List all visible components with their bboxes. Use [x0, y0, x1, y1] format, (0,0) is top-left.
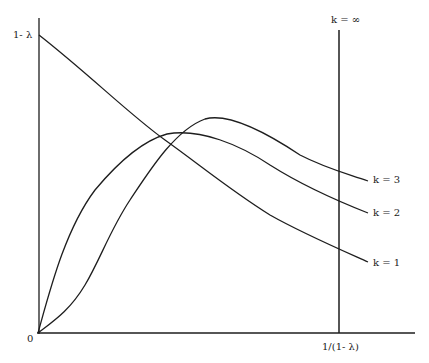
x-axis-right-label: 1/(1- λ): [322, 342, 359, 352]
k3-label: k = 3: [373, 175, 400, 185]
chart-plot: [0, 0, 429, 363]
k1-curve: [39, 35, 368, 262]
origin-label: 0: [27, 334, 33, 344]
y-axis-top-label: 1- λ: [13, 30, 32, 40]
k1-label: k = 1: [373, 258, 400, 268]
k2-label: k = 2: [373, 208, 400, 218]
k-infinity-label: k = ∞: [331, 15, 360, 25]
k3-curve: [38, 118, 368, 333]
